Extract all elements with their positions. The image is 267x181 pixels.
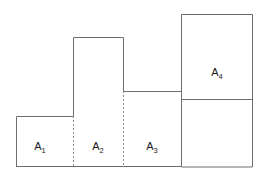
- figure-root: A1 A2 A3 A4: [0, 0, 267, 181]
- label-a4-subscript: 4: [219, 72, 223, 81]
- label-a1-subscript: 1: [42, 146, 46, 155]
- area-decomposition-diagram: A1 A2 A3 A4: [0, 0, 267, 181]
- label-a3-subscript: 3: [154, 146, 158, 155]
- figure-background: [0, 0, 267, 181]
- label-a2-subscript: 2: [100, 146, 104, 155]
